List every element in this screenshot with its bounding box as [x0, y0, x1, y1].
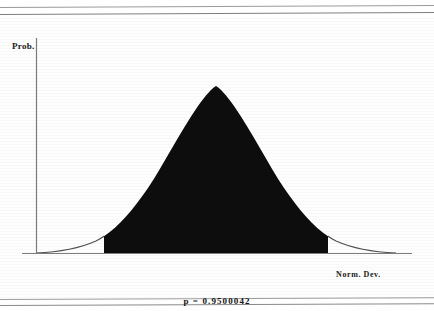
shaded-area-95-percent [36, 86, 396, 253]
distribution-plot [0, 16, 434, 298]
page-rule-top-inner [0, 12, 434, 15]
probability-caption: p = 0.9500042 [0, 296, 434, 306]
y-axis-label: Prob. [12, 41, 35, 51]
normal-distribution-figure: Prob. Norm. Dev. p = 0.9500042 [0, 16, 434, 298]
x-axis-label: Norm. Dev. [336, 270, 381, 279]
page-rule-top-outer [0, 5, 434, 8]
